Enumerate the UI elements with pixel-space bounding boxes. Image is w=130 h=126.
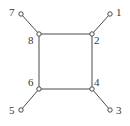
node-7 [19,12,23,16]
node-label-2: 2 [94,35,100,46]
edge-1-2 [92,14,110,34]
node-label-5: 5 [9,105,15,116]
node-label-1: 1 [116,7,122,18]
node-6 [37,87,41,91]
edge-3-4 [92,89,110,110]
node-5 [19,108,23,112]
box-diagram-figure: 12345678 [0,0,130,126]
node-label-4: 4 [94,77,100,88]
node-1 [108,12,112,16]
edges-group [21,14,110,110]
graph-canvas [0,0,130,126]
node-label-6: 6 [28,77,34,88]
node-label-7: 7 [9,7,15,18]
node-8 [37,32,41,36]
node-label-8: 8 [28,35,34,46]
edge-7-8 [21,14,39,34]
node-3 [108,108,112,112]
node-label-3: 3 [116,105,122,116]
edge-5-6 [21,89,39,110]
